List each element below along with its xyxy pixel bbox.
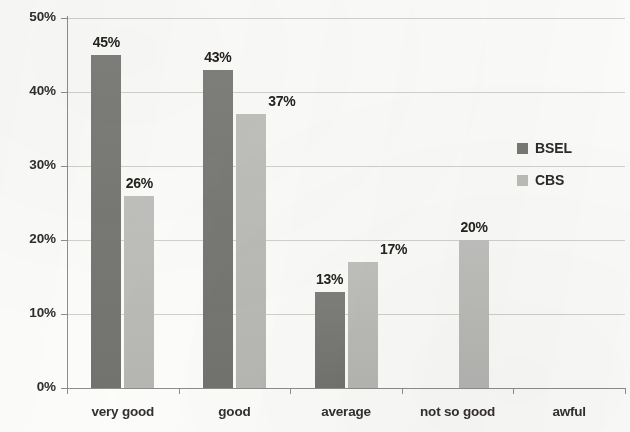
x-axis-tick-mark (513, 388, 514, 394)
chart-legend: BSEL CBS (517, 137, 572, 201)
y-axis-tick-mark (61, 314, 67, 315)
bar-value-label: 26% (117, 175, 161, 191)
bar-value-label: 37% (260, 93, 304, 109)
y-axis-tick-label: 40% (0, 83, 56, 98)
y-axis-tick-mark (61, 240, 67, 241)
y-axis-tick-mark (61, 18, 67, 19)
y-axis-line (67, 16, 68, 390)
bar-value-label: 17% (372, 241, 416, 257)
bar-bsel-2 (315, 292, 345, 388)
y-axis-tick-mark (61, 166, 67, 167)
bar-bsel-0 (91, 55, 121, 388)
legend-swatch-bsel (517, 143, 528, 154)
bar-value-label: 20% (452, 219, 496, 235)
bar-value-label: 43% (196, 49, 240, 65)
bar-cbs-1 (236, 114, 266, 388)
legend-swatch-cbs (517, 175, 528, 186)
bar-cbs-3 (459, 240, 489, 388)
y-axis-tick-label: 50% (0, 9, 56, 24)
x-axis-category-label: very good (67, 404, 179, 419)
y-axis-tick-mark (61, 92, 67, 93)
bar-chart: 45%43%13%26%37%17%20% 0%10%20%30%40%50% … (0, 0, 630, 432)
x-axis-category-label: not so good (402, 404, 514, 419)
bar-value-label: 13% (308, 271, 352, 287)
legend-item-cbs: CBS (517, 169, 572, 191)
bar-cbs-0 (124, 196, 154, 388)
x-axis-category-label: good (179, 404, 291, 419)
x-axis-tick-mark (625, 388, 626, 394)
plot-area: 45%43%13%26%37%17%20% (67, 18, 625, 388)
y-axis-tick-label: 0% (0, 379, 56, 394)
axis-baseline (67, 388, 625, 389)
y-axis-tick-label: 20% (0, 231, 56, 246)
x-axis-tick-mark (179, 388, 180, 394)
gridline (67, 92, 625, 93)
y-axis-tick-label: 10% (0, 305, 56, 320)
x-axis-category-label: awful (513, 404, 625, 419)
y-axis-tick-label: 30% (0, 157, 56, 172)
legend-label-bsel: BSEL (535, 141, 572, 155)
x-axis-category-label: average (290, 404, 402, 419)
legend-item-bsel: BSEL (517, 137, 572, 159)
bar-cbs-2 (348, 262, 378, 388)
x-axis-tick-mark (290, 388, 291, 394)
bar-value-label: 45% (84, 34, 128, 50)
x-axis-tick-mark (402, 388, 403, 394)
legend-label-cbs: CBS (535, 173, 564, 187)
x-axis-tick-mark (67, 388, 68, 394)
gridline (67, 18, 625, 19)
bar-bsel-1 (203, 70, 233, 388)
